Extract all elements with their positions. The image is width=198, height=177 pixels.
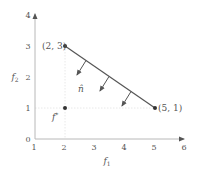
point-label-2-3: (2, 3) <box>42 41 66 51</box>
normal-arrow-icon <box>77 61 86 76</box>
x-tick: 3 <box>91 143 96 152</box>
y-tick: 4 <box>25 11 30 20</box>
x-axis-label: f1 <box>102 156 110 167</box>
ideal-point-label: f* <box>51 111 58 122</box>
pareto-diagram: 1 2 3 4 5 6 0 1 2 3 4 f2 f1 n̂ (2, 3) (5… <box>0 0 198 177</box>
x-tick: 6 <box>181 143 186 152</box>
point-label-5-1: (5, 1) <box>158 103 182 113</box>
y-tick: 1 <box>25 104 30 113</box>
normal-arrow-icon <box>122 92 131 107</box>
x-tick-labels: 1 2 3 4 5 6 <box>31 143 186 152</box>
x-tick: 5 <box>151 143 156 152</box>
y-tick: 3 <box>25 42 30 51</box>
y-tick: 2 <box>25 73 30 82</box>
y-tick-labels: 0 1 2 3 4 <box>25 11 30 144</box>
x-tick: 1 <box>31 143 36 152</box>
x-tick: 4 <box>121 143 126 152</box>
ideal-point <box>63 106 67 110</box>
x-tick: 2 <box>61 143 66 152</box>
normal-label: n̂ <box>78 84 84 94</box>
point-5-1 <box>153 106 157 110</box>
pareto-segment <box>65 46 155 108</box>
y-tick: 0 <box>25 135 30 144</box>
normal-arrows <box>77 61 131 107</box>
normal-arrow-icon <box>100 77 109 92</box>
y-axis-label: f2 <box>10 72 18 83</box>
